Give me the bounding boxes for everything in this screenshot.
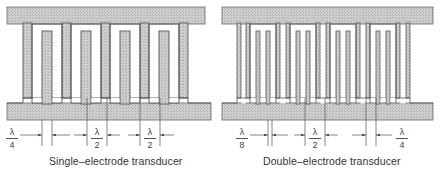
dimension-label-lambda-2: λ 2 [91,127,103,150]
bottom-bus-bar [7,103,211,120]
dimension-label-lambda-4: λ 4 [396,127,408,150]
caption-double-electrode: Double–electrode transducer [263,155,401,167]
caption-single-electrode: Single–electrode transducer [49,155,182,167]
top-bus-bar [222,7,433,24]
dimension-label-lambda-4: λ 4 [6,127,18,150]
dimension-label-lambda-2: λ 2 [144,127,156,150]
dimension-label-lambda-8: λ 8 [236,127,248,150]
bottom-bus-bar [222,103,433,120]
top-bus-bar [7,7,205,24]
top-finger-pairs [237,23,410,98]
double-electrode-transducer [222,7,433,146]
single-electrode-transducer [7,7,211,146]
transducer-diagram [0,0,440,173]
dimension-label-lambda-2: λ 2 [309,127,321,150]
